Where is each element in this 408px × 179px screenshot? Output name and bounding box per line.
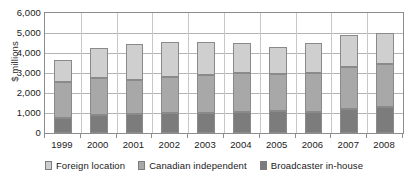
x-axis-tick (295, 134, 296, 138)
bar-segment[interactable] (90, 78, 108, 115)
bar-segment[interactable] (126, 44, 144, 80)
bar-segment[interactable] (233, 112, 251, 133)
bar-segment[interactable] (305, 112, 323, 133)
x-axis-tick-label: 2002 (151, 139, 187, 150)
bar-segment[interactable] (376, 64, 394, 107)
bar-group[interactable] (161, 13, 179, 133)
x-axis-tick-label: 2003 (187, 139, 223, 150)
bar-group[interactable] (233, 13, 251, 133)
bar-segment[interactable] (305, 73, 323, 112)
bar-group[interactable] (305, 13, 323, 133)
legend-swatch-broadcaster-in-house (260, 161, 267, 170)
bar-group[interactable] (197, 13, 215, 133)
x-axis-tick (80, 134, 81, 138)
y-axis-tick-label: 2,000 (1, 88, 41, 98)
x-axis-tick-label: 2000 (80, 139, 116, 150)
x-axis-tick (366, 134, 367, 138)
bar-segment[interactable] (161, 77, 179, 113)
bar-segment[interactable] (340, 109, 358, 133)
y-axis-tick-labels: 6,0005,0004,0003,0002,0001,0000 (0, 0, 41, 179)
legend-item-label: Canadian independent (149, 160, 247, 171)
bar-segment[interactable] (376, 107, 394, 133)
bar-segment[interactable] (269, 111, 287, 133)
x-axis-tick (116, 134, 117, 138)
bar-segment[interactable] (340, 35, 358, 67)
bar-segment[interactable] (233, 43, 251, 73)
y-axis-tick-label: 3,000 (1, 68, 41, 78)
bar-segment[interactable] (197, 75, 215, 113)
legend-item[interactable]: Canadian independent (138, 160, 247, 171)
x-axis-tick-label: 2005 (259, 139, 295, 150)
x-axis-tick-labels: 1999200020012002200320042005200620072008 (44, 139, 404, 153)
bar-group[interactable] (126, 13, 144, 133)
bars-layer (45, 13, 403, 133)
x-axis-tick-label: 2006 (295, 139, 331, 150)
bar-segment[interactable] (161, 113, 179, 133)
legend-item-label: Foreign location (56, 160, 125, 171)
bar-group[interactable] (376, 13, 394, 133)
x-axis-tick (259, 134, 260, 138)
x-axis-tick-label: 1999 (44, 139, 80, 150)
legend-item-label: Broadcaster in-house (271, 160, 363, 171)
x-axis-tick (44, 134, 45, 138)
bar-segment[interactable] (161, 42, 179, 77)
bar-group[interactable] (340, 13, 358, 133)
bar-group[interactable] (90, 13, 108, 133)
x-axis-tick-label: 2007 (330, 139, 366, 150)
x-axis-tick (187, 134, 188, 138)
bar-segment[interactable] (126, 114, 144, 133)
bar-group[interactable] (54, 13, 72, 133)
bar-segment[interactable] (54, 82, 72, 118)
legend-swatch-canadian-independent (138, 161, 145, 170)
x-axis-tick (330, 134, 331, 138)
y-axis-tick-label: 6,000 (1, 8, 41, 18)
bar-segment[interactable] (269, 47, 287, 74)
stacked-bar-chart: $ millions 6,0005,0004,0003,0002,0001,00… (0, 0, 408, 179)
bar-segment[interactable] (340, 67, 358, 109)
bar-segment[interactable] (233, 73, 251, 112)
bar-segment[interactable] (197, 42, 215, 75)
y-axis-tick-label: 4,000 (1, 48, 41, 58)
x-axis-tick-label: 2008 (366, 139, 402, 150)
x-axis-tick (223, 134, 224, 138)
x-axis-tick (402, 134, 403, 138)
bar-segment[interactable] (90, 115, 108, 133)
legend-item[interactable]: Foreign location (45, 160, 125, 171)
x-axis-tick-label: 2001 (116, 139, 152, 150)
bar-segment[interactable] (376, 33, 394, 64)
bar-segment[interactable] (54, 118, 72, 133)
y-axis-tick-label: 0 (1, 128, 41, 138)
legend-item[interactable]: Broadcaster in-house (260, 160, 363, 171)
bar-group[interactable] (269, 13, 287, 133)
chart-legend: Foreign locationCanadian independentBroa… (0, 160, 408, 171)
y-axis-tick-label: 5,000 (1, 28, 41, 38)
bar-segment[interactable] (269, 74, 287, 111)
x-axis-ticks (44, 134, 404, 138)
bar-segment[interactable] (305, 43, 323, 73)
y-axis-tick-label: 1,000 (1, 108, 41, 118)
plot-area (44, 12, 404, 134)
bar-segment[interactable] (126, 80, 144, 114)
x-axis-tick-label: 2004 (223, 139, 259, 150)
legend-swatch-foreign-location (45, 161, 52, 170)
bar-segment[interactable] (90, 48, 108, 78)
bar-segment[interactable] (197, 113, 215, 133)
bar-segment[interactable] (54, 60, 72, 82)
x-axis-tick (151, 134, 152, 138)
